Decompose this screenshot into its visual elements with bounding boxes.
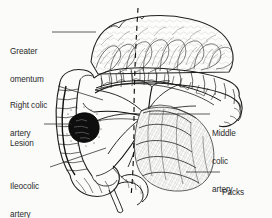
lesion-mass-group — [66, 107, 102, 147]
label-ileocolic-artery: Ileocolic artery — [10, 163, 39, 218]
label-middle-colic-artery-line1: Middle — [212, 129, 236, 138]
label-right-colic-artery-line1: Right colic — [10, 101, 47, 110]
label-greater-omentum-line1: Greater — [10, 47, 44, 56]
anatomical-figure: Greater omentum Right colic artery Lesio… — [0, 0, 272, 218]
label-ileocolic-artery-line2: artery — [10, 210, 39, 218]
label-middle-colic-artery-line2: colic — [212, 157, 236, 166]
label-packs: Packs — [222, 169, 244, 216]
label-packs-line1: Packs — [222, 188, 244, 197]
label-ileocolic-artery-line1: Ileocolic — [10, 182, 39, 191]
label-lesion-line1: Lesion — [10, 139, 34, 148]
label-lesion: Lesion — [10, 120, 34, 167]
greater-omentum-group — [88, 6, 238, 78]
cecum-appendix-group — [70, 166, 148, 213]
